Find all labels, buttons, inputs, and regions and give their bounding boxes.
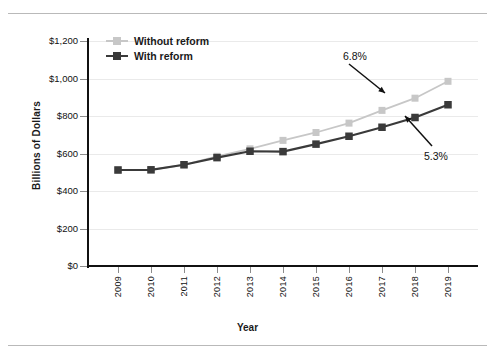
line-chart-figure: Billions of Dollars Year $0$200$400$600$… <box>0 0 495 360</box>
legend-label-with-reform: With reform <box>134 50 193 62</box>
annotation-arrow-without-reform <box>349 64 385 93</box>
legend-label-without-reform: Without reform <box>134 35 209 47</box>
legend-key-with-reform <box>106 50 128 61</box>
chart-legend: Without reform With reform <box>106 33 209 63</box>
legend-item-with-reform: With reform <box>106 48 209 63</box>
legend-key-without-reform <box>106 35 128 46</box>
annotation-growth-with-reform: 5.3% <box>424 150 448 162</box>
annotation-arrows-svg <box>0 0 495 360</box>
legend-item-without-reform: Without reform <box>106 33 209 48</box>
annotation-growth-without-reform: 6.8% <box>343 50 367 62</box>
